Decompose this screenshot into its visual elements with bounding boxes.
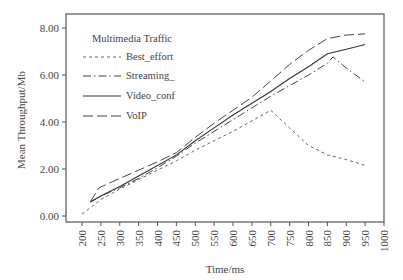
x-tick-label: 950	[359, 230, 371, 247]
x-tick-label: 250	[95, 230, 107, 247]
legend-label-voip: VoIP	[126, 110, 147, 121]
legend-label-streaming: Streaming_	[126, 70, 175, 81]
x-axis-label: Time/ms	[206, 263, 245, 275]
legend-label-video-conf: Video_conf	[126, 90, 175, 101]
legend-title: Multimedia Traffic	[92, 33, 172, 44]
x-tick-label: 900	[340, 230, 352, 247]
x-tick-label: 550	[208, 230, 220, 247]
y-tick-label: 8.00	[40, 22, 60, 34]
y-tick-label: 2.00	[40, 163, 60, 175]
y-axis-label: Mean Throughput/Mb	[15, 71, 27, 169]
y-tick-label: 4.00	[40, 116, 60, 128]
line-chart: 0.002.004.006.008.00 2002503003504004505…	[0, 0, 403, 280]
x-tick-label: 500	[189, 230, 201, 247]
plot-area-frame	[66, 14, 384, 222]
x-tick-label: 600	[227, 230, 239, 247]
y-tick-label: 6.00	[40, 69, 60, 81]
x-tick-label: 650	[246, 230, 258, 247]
x-tick-label: 300	[114, 230, 126, 247]
x-tick-label: 750	[284, 230, 296, 247]
y-tick-label: 0.00	[40, 210, 60, 222]
legend: Multimedia Traffic Best_effort Streaming…	[83, 33, 175, 121]
series-line-best-effort	[82, 110, 365, 214]
x-tick-label: 350	[133, 230, 145, 247]
x-tick-label: 700	[265, 230, 277, 247]
x-tick-label: 800	[303, 230, 315, 247]
legend-label-best-effort: Best_effort	[126, 51, 173, 62]
x-tick-label: 1000	[378, 230, 390, 253]
x-tick-label: 400	[152, 230, 164, 247]
x-axis-ticks: 2002503003504004505005506006507007508008…	[76, 222, 390, 252]
x-tick-label: 450	[170, 230, 182, 247]
series-lines	[82, 34, 365, 214]
x-tick-label: 850	[321, 230, 333, 247]
y-axis-ticks: 0.002.004.006.008.00	[40, 22, 66, 222]
x-tick-label: 200	[76, 230, 88, 247]
